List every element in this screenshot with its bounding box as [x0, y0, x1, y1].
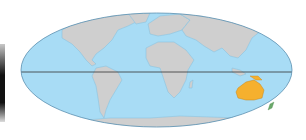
new-zealand — [268, 102, 274, 110]
antarctica — [20, 116, 292, 130]
world-map — [0, 0, 306, 140]
